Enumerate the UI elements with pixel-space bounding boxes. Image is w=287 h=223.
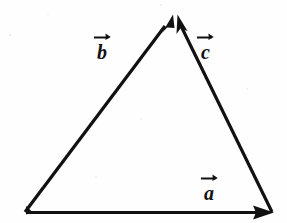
vector-c-arrow	[177, 15, 273, 213]
vector-label-b: b	[97, 40, 107, 62]
vector-label-a-text: a	[204, 182, 214, 204]
vector-label-a: a	[204, 181, 214, 203]
vector-label-c-text: c	[201, 41, 210, 63]
vector-diagram-canvas	[0, 0, 287, 223]
vector-label-c: c	[201, 40, 210, 62]
vector-label-b-text: b	[97, 41, 107, 63]
vector-b-arrowhead	[162, 15, 175, 34]
vector-b-shaft	[25, 26, 165, 212]
vector-c-shaft	[182, 28, 272, 212]
vector-a-arrow	[26, 206, 274, 220]
vector-triangle-figure: b c a	[0, 0, 287, 223]
